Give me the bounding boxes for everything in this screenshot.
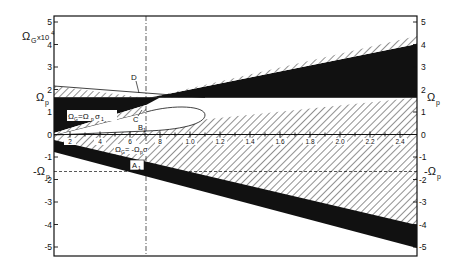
annotation-A1: A 1 <box>130 160 144 171</box>
svg-text:G: G <box>31 37 36 44</box>
svg-text:1: 1 <box>101 116 104 122</box>
svg-text:1.0: 1.0 <box>185 138 194 145</box>
annotation-upper-relation: Ω G =Ω p σ 1 <box>67 110 117 122</box>
svg-text:3: 3 <box>421 62 426 72</box>
svg-text:A: A <box>132 161 137 170</box>
svg-text:3: 3 <box>47 62 52 72</box>
svg-text:0: 0 <box>421 130 426 140</box>
svg-text:D: D <box>131 73 137 82</box>
svg-text:2.4: 2.4 <box>395 138 404 145</box>
svg-text:-4: -4 <box>44 220 52 230</box>
svg-text:σ: σ <box>143 145 148 154</box>
svg-text:1.8: 1.8 <box>305 138 314 145</box>
svg-text:5: 5 <box>421 17 426 27</box>
svg-text:-5: -5 <box>419 242 427 252</box>
omega-p-label-right: Ω p <box>427 91 440 107</box>
svg-text:0: 0 <box>47 130 52 140</box>
svg-text:2.2: 2.2 <box>365 138 374 145</box>
svg-text:8: 8 <box>158 138 162 145</box>
svg-text:-1: -1 <box>419 152 427 162</box>
stability-diagram: 2 4 6 8 1.0 1.2 1.4 1.6 1.8 2.0 2.2 2.4 … <box>0 0 464 273</box>
svg-text:Ω: Ω <box>427 91 435 103</box>
svg-text:-Ω: -Ω <box>33 165 45 177</box>
svg-text:2: 2 <box>68 138 72 145</box>
svg-text:6: 6 <box>128 138 132 145</box>
svg-text:1: 1 <box>138 165 141 171</box>
svg-text:1.4: 1.4 <box>245 138 254 145</box>
svg-text:-4: -4 <box>419 220 427 230</box>
svg-text:1: 1 <box>47 107 52 117</box>
annotation-D: D <box>131 73 139 93</box>
svg-text:p: p <box>46 173 50 181</box>
svg-text:p: p <box>91 116 94 122</box>
svg-text:x10: x10 <box>37 33 49 42</box>
svg-text:σ: σ <box>95 112 100 121</box>
right-y-tick-labels: 5 4 3 2 1 0 -1 -2 -3 -4 -5 <box>419 17 427 252</box>
svg-text:1: 1 <box>421 107 426 117</box>
svg-text:p: p <box>436 99 440 107</box>
svg-text:2: 2 <box>421 85 426 95</box>
svg-text:=Ω: =Ω <box>78 112 89 121</box>
svg-text:4: 4 <box>421 40 426 50</box>
neg-omega-p-label-left: -Ω p <box>33 165 50 181</box>
svg-text:1: 1 <box>143 127 146 133</box>
svg-text:1.6: 1.6 <box>275 138 284 145</box>
svg-text:= -Ω: = -Ω <box>125 145 140 154</box>
svg-text:5: 5 <box>47 17 52 27</box>
svg-text:-3: -3 <box>44 197 52 207</box>
svg-text:1.2: 1.2 <box>215 138 224 145</box>
left-y-tick-labels: 5 4 3 2 1 0 -1 -2 -3 -4 -5 <box>44 17 52 252</box>
annotation-lower-relation: Ω G = -Ω p σ <box>114 144 148 155</box>
svg-text:-3: -3 <box>419 197 427 207</box>
svg-text:2: 2 <box>47 85 52 95</box>
svg-text:-1: -1 <box>44 152 52 162</box>
svg-text:2.0: 2.0 <box>335 138 344 145</box>
svg-text:Ω: Ω <box>36 91 44 103</box>
svg-text:-Ω: -Ω <box>424 165 436 177</box>
svg-text:Ω: Ω <box>22 30 30 42</box>
svg-text:p: p <box>437 173 441 181</box>
svg-text:-5: -5 <box>44 242 52 252</box>
svg-text:p: p <box>45 99 49 107</box>
svg-text:4: 4 <box>98 138 102 145</box>
